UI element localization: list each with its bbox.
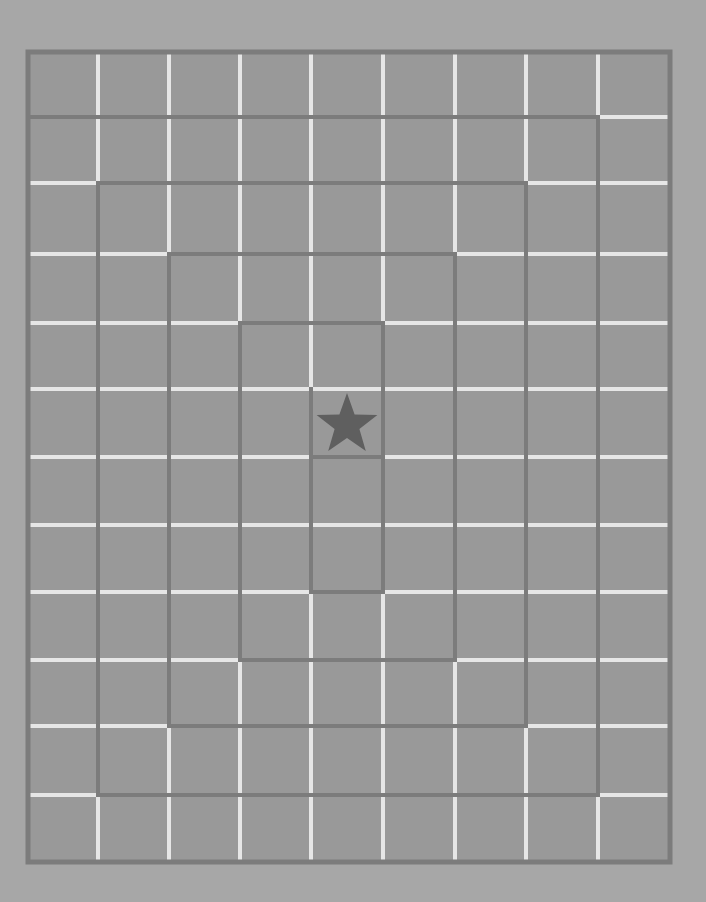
maze-cell[interactable] bbox=[385, 119, 453, 181]
maze-cell[interactable] bbox=[30, 527, 96, 590]
maze-board[interactable] bbox=[0, 0, 706, 902]
maze-cell[interactable] bbox=[385, 527, 453, 590]
maze-cell[interactable] bbox=[100, 391, 167, 455]
maze-cell[interactable] bbox=[457, 594, 524, 658]
maze-cell[interactable] bbox=[457, 119, 524, 181]
maze-cell[interactable] bbox=[600, 185, 668, 252]
maze-cell[interactable] bbox=[385, 459, 453, 523]
maze-cell[interactable] bbox=[242, 662, 309, 724]
maze-cell[interactable] bbox=[528, 54, 596, 115]
maze-cell[interactable] bbox=[242, 728, 309, 793]
maze-cell[interactable] bbox=[457, 527, 524, 590]
maze-cell[interactable] bbox=[242, 527, 309, 590]
maze-cell[interactable] bbox=[457, 256, 524, 321]
maze-cell[interactable] bbox=[528, 185, 596, 252]
maze-cell[interactable] bbox=[600, 325, 668, 387]
maze-cell[interactable] bbox=[100, 728, 167, 793]
maze-cell[interactable] bbox=[528, 728, 596, 793]
maze-cell[interactable] bbox=[600, 594, 668, 658]
maze-cell[interactable] bbox=[242, 797, 309, 860]
maze-cell[interactable] bbox=[313, 54, 381, 115]
maze-cell[interactable] bbox=[313, 325, 381, 387]
maze-cell[interactable] bbox=[385, 797, 453, 860]
maze-cell[interactable] bbox=[100, 662, 167, 724]
maze-cell[interactable] bbox=[313, 797, 381, 860]
maze-cell[interactable] bbox=[600, 527, 668, 590]
maze-cell[interactable] bbox=[385, 662, 453, 724]
maze-cell[interactable] bbox=[30, 797, 96, 860]
maze-cell[interactable] bbox=[600, 256, 668, 321]
maze-cell[interactable] bbox=[313, 459, 381, 523]
maze-cell[interactable] bbox=[100, 119, 167, 181]
maze-cell[interactable] bbox=[313, 662, 381, 724]
maze-cell[interactable] bbox=[242, 185, 309, 252]
maze-cell[interactable] bbox=[385, 256, 453, 321]
maze-cell[interactable] bbox=[528, 527, 596, 590]
maze-cell[interactable] bbox=[528, 391, 596, 455]
maze-cell[interactable] bbox=[100, 459, 167, 523]
maze-cell[interactable] bbox=[171, 662, 238, 724]
maze-cell[interactable] bbox=[528, 256, 596, 321]
maze-cell[interactable] bbox=[242, 325, 309, 387]
maze-cell[interactable] bbox=[600, 459, 668, 523]
maze-cell[interactable] bbox=[171, 325, 238, 387]
maze-cell[interactable] bbox=[528, 662, 596, 724]
maze-cell[interactable] bbox=[457, 459, 524, 523]
maze-cell[interactable] bbox=[385, 728, 453, 793]
maze-cell[interactable] bbox=[30, 185, 96, 252]
maze-cell[interactable] bbox=[171, 119, 238, 181]
maze-cell[interactable] bbox=[313, 527, 381, 590]
maze-cell[interactable] bbox=[30, 728, 96, 793]
maze-cell[interactable] bbox=[171, 256, 238, 321]
maze-cell[interactable] bbox=[528, 797, 596, 860]
maze-cell[interactable] bbox=[30, 391, 96, 455]
maze-cell[interactable] bbox=[528, 119, 596, 181]
maze-cell[interactable] bbox=[457, 797, 524, 860]
maze-cell[interactable] bbox=[385, 594, 453, 658]
maze-cell[interactable] bbox=[30, 325, 96, 387]
maze-cell[interactable] bbox=[171, 797, 238, 860]
maze-cell[interactable] bbox=[100, 797, 167, 860]
maze-cell[interactable] bbox=[457, 391, 524, 455]
maze-cell[interactable] bbox=[385, 54, 453, 115]
maze-cell[interactable] bbox=[242, 459, 309, 523]
maze-cell[interactable] bbox=[528, 459, 596, 523]
maze-cell[interactable] bbox=[528, 594, 596, 658]
maze-cell[interactable] bbox=[30, 459, 96, 523]
maze-cell[interactable] bbox=[100, 185, 167, 252]
maze-cell[interactable] bbox=[385, 391, 453, 455]
maze-cell[interactable] bbox=[457, 662, 524, 724]
maze-cell[interactable] bbox=[313, 256, 381, 321]
maze-cell[interactable] bbox=[457, 728, 524, 793]
maze-cell[interactable] bbox=[171, 391, 238, 455]
maze-cell[interactable] bbox=[313, 185, 381, 252]
maze-cell[interactable] bbox=[171, 185, 238, 252]
maze-cell[interactable] bbox=[600, 391, 668, 455]
maze-cell[interactable] bbox=[600, 797, 668, 860]
maze-cell[interactable] bbox=[171, 54, 238, 115]
maze-cell[interactable] bbox=[528, 325, 596, 387]
maze-cell[interactable] bbox=[600, 728, 668, 793]
maze-cell[interactable] bbox=[171, 594, 238, 658]
maze-cell[interactable] bbox=[385, 185, 453, 252]
maze-cell[interactable] bbox=[313, 594, 381, 658]
maze-cell[interactable] bbox=[30, 662, 96, 724]
maze-cell[interactable] bbox=[171, 459, 238, 523]
maze-cell[interactable] bbox=[242, 119, 309, 181]
maze-cell[interactable] bbox=[242, 594, 309, 658]
maze-cell[interactable] bbox=[100, 594, 167, 658]
maze-cell[interactable] bbox=[600, 662, 668, 724]
maze-cell[interactable] bbox=[30, 594, 96, 658]
maze-cell[interactable] bbox=[30, 54, 96, 115]
maze-cell[interactable] bbox=[100, 256, 167, 321]
maze-cell[interactable] bbox=[457, 185, 524, 252]
maze-cell[interactable] bbox=[30, 256, 96, 321]
maze-cell[interactable] bbox=[385, 325, 453, 387]
maze-cell[interactable] bbox=[171, 728, 238, 793]
maze-cell[interactable] bbox=[600, 54, 668, 115]
maze-cell[interactable] bbox=[457, 54, 524, 115]
maze-cell[interactable] bbox=[457, 325, 524, 387]
maze-cell[interactable] bbox=[242, 256, 309, 321]
maze-cell[interactable] bbox=[100, 54, 167, 115]
maze-cell[interactable] bbox=[100, 527, 167, 590]
